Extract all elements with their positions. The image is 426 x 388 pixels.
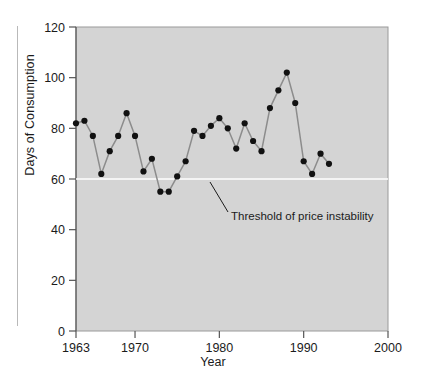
y-axis-title: Days of Consumption	[23, 15, 37, 215]
threshold-annotation-label: Threshold of price instability	[231, 210, 374, 222]
svg-text:1990: 1990	[290, 341, 318, 355]
chart-svg: 020406080100120 19631970198019902000 Thr…	[0, 0, 426, 388]
svg-text:120: 120	[44, 21, 65, 35]
y-axis: 020406080100120	[44, 21, 76, 339]
svg-text:80: 80	[51, 122, 65, 136]
svg-text:2000: 2000	[374, 341, 402, 355]
chart-figure: 020406080100120 19631970198019902000 Thr…	[0, 0, 426, 388]
svg-text:60: 60	[51, 173, 65, 187]
svg-text:0: 0	[58, 325, 65, 339]
svg-text:20: 20	[51, 274, 65, 288]
x-axis: 19631970198019902000	[62, 331, 402, 355]
svg-text:1970: 1970	[121, 341, 149, 355]
svg-text:1963: 1963	[62, 341, 90, 355]
x-axis-title: Year	[0, 355, 426, 369]
chart-page: 020406080100120 19631970198019902000 Thr…	[0, 0, 426, 388]
svg-text:40: 40	[51, 223, 65, 237]
svg-text:1980: 1980	[205, 341, 233, 355]
svg-text:100: 100	[44, 71, 65, 85]
